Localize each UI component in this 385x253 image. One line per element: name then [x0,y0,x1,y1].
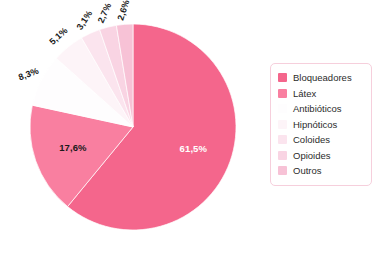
legend-color-swatch [278,166,287,175]
slice-value-label: 17,6% [59,142,86,153]
legend-color-swatch [278,73,287,82]
legend-item-label: Hipnóticos [293,120,337,130]
legend-item[interactable]: Opioides [278,148,365,164]
legend-color-swatch [278,89,287,98]
legend-color-swatch [278,120,287,129]
legend-item-label: Outros [293,166,322,176]
legend-item-label: Coloides [293,135,330,145]
legend-item-label: Opioides [293,151,331,161]
legend-color-swatch [278,104,287,113]
legend-item[interactable]: Antibióticos [278,101,365,117]
legend-item[interactable]: Hipnóticos [278,117,365,133]
legend-item[interactable]: Outros [278,163,365,179]
legend-item-label: Antibióticos [293,104,342,114]
legend-item[interactable]: Bloqueadores [278,70,365,86]
legend-item[interactable]: Látex [278,86,365,102]
legend-item-label: Látex [293,89,316,99]
legend-color-swatch [278,151,287,160]
legend-item-label: Bloqueadores [293,73,352,83]
slice-value-label: 61,5% [180,143,207,154]
legend-color-swatch [278,135,287,144]
legend-item[interactable]: Coloides [278,132,365,148]
chart-legend: BloqueadoresLátexAntibióticosHipnóticosC… [270,63,372,186]
